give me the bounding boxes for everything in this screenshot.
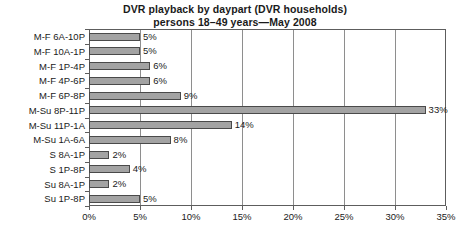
value-tick <box>293 206 294 210</box>
chart-title: DVR playback by daypart (DVR households)… <box>0 3 470 28</box>
bar-row: 8% <box>89 132 470 148</box>
bar <box>89 47 140 55</box>
chart-title-line-2: persons 18–49 years—May 2008 <box>0 16 470 29</box>
bar-value-label: 9% <box>184 88 198 104</box>
value-tick <box>89 206 90 210</box>
category-label: M-F 10A-1P <box>0 44 85 60</box>
bar-row: 9% <box>89 88 470 104</box>
bar-row: 6% <box>89 73 470 89</box>
value-tick-label: 35% <box>426 211 466 223</box>
category-label: S 1P-8P <box>0 162 85 178</box>
bar-value-label: 6% <box>153 58 167 74</box>
bar <box>89 151 109 159</box>
bar <box>89 62 150 70</box>
bar-value-label: 5% <box>143 43 157 59</box>
bar <box>89 195 140 203</box>
value-tick <box>242 206 243 210</box>
bars-layer: 5%5%6%6%9%33%14%8%2%4%2%5% <box>89 29 470 206</box>
category-label: M-F 6A-10P <box>0 29 85 45</box>
value-tick-label: 5% <box>120 211 160 223</box>
bar <box>89 106 426 114</box>
value-tick-label: 0% <box>69 211 109 223</box>
value-tick-label: 20% <box>273 211 313 223</box>
bar-row: 5% <box>89 191 470 207</box>
bar <box>89 33 140 41</box>
value-tick-label: 25% <box>324 211 364 223</box>
bar-row: 14% <box>89 118 470 134</box>
value-axis-labels: 0%5%10%15%20%25%30%35% <box>0 211 470 227</box>
bar <box>89 92 181 100</box>
bar-value-label: 8% <box>174 132 188 148</box>
bar-row: 4% <box>89 162 470 178</box>
bar-value-label: 5% <box>143 191 157 207</box>
category-label: M-Su 8P-11P <box>0 103 85 119</box>
category-label: Su 1P-8P <box>0 191 85 207</box>
bar-row: 33% <box>89 103 470 119</box>
bar-value-label: 6% <box>153 73 167 89</box>
value-tick <box>395 206 396 210</box>
value-tick-label: 30% <box>375 211 415 223</box>
bar <box>89 77 150 85</box>
value-tick <box>140 206 141 210</box>
category-label: S 8A-1P <box>0 147 85 163</box>
category-label: M-Su 1A-6A <box>0 132 85 148</box>
bar-value-label: 33% <box>429 102 448 118</box>
value-tick <box>446 206 447 210</box>
bar-value-label: 2% <box>112 176 126 192</box>
bar <box>89 136 171 144</box>
bar <box>89 121 232 129</box>
value-tick <box>344 206 345 210</box>
category-label: M-F 4P-6P <box>0 73 85 89</box>
category-axis-labels: M-F 6A-10PM-F 10A-1PM-F 1P-4PM-F 4P-6PM-… <box>0 29 85 206</box>
value-axis-ticks <box>89 206 446 210</box>
category-label: M-Su 11P-1A <box>0 118 85 134</box>
bar-chart: DVR playback by daypart (DVR households)… <box>0 0 470 240</box>
bar <box>89 165 130 173</box>
bar-value-label: 5% <box>143 29 157 45</box>
value-tick <box>191 206 192 210</box>
value-tick-label: 15% <box>222 211 262 223</box>
category-label: M-F 1P-4P <box>0 59 85 75</box>
bar-row: 6% <box>89 59 470 75</box>
bar-value-label: 4% <box>133 161 147 177</box>
bar-row: 5% <box>89 44 470 60</box>
bar-value-label: 2% <box>112 147 126 163</box>
category-label: Su 8A-1P <box>0 177 85 193</box>
bar-value-label: 14% <box>235 117 254 133</box>
value-tick-label: 10% <box>171 211 211 223</box>
bar <box>89 180 109 188</box>
category-label: M-F 6P-8P <box>0 88 85 104</box>
chart-title-line-1: DVR playback by daypart (DVR households) <box>0 3 470 16</box>
